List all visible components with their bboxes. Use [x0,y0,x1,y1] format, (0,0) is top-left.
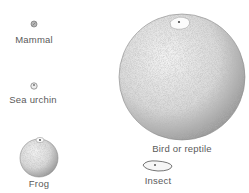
frog-label: Frog [29,178,49,189]
sea-urchin-label: Sea urchin [9,94,56,105]
mammal-label: Mammal [15,34,53,45]
bird-or-reptile-egg-icon [119,14,245,140]
insect-label: Insect [145,175,172,186]
frog-egg-icon [20,137,58,177]
insect-egg-icon [143,161,172,171]
sea-urchin-egg-icon [31,83,37,89]
mammal-egg-icon [31,21,37,27]
bird-or-reptile-label: Bird or reptile [152,143,212,154]
